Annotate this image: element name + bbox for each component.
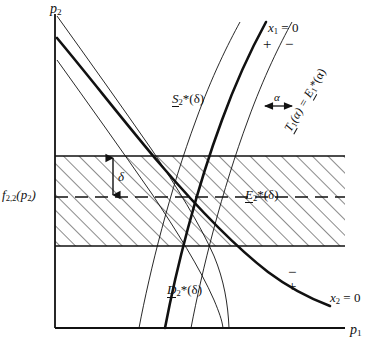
y-axis-label: p2 — [50, 2, 62, 17]
x2-plus-sign: + — [288, 279, 296, 294]
f-subscript: 2,2 — [6, 193, 17, 203]
hatched-band — [55, 156, 345, 246]
x-axis-label: p1 — [350, 323, 362, 338]
demand-region-label: D2*(δ) — [167, 283, 202, 297]
axis-value-label-f22: f2,2(p2) — [2, 188, 36, 202]
delta-label: δ — [118, 170, 124, 183]
alpha-label: α — [274, 92, 280, 103]
y-axis-label-subscript: 2 — [57, 7, 62, 17]
x2-zero-label: x2 = 0 — [330, 291, 360, 305]
supply-region-label: S2*(δ) — [172, 92, 204, 106]
figure-container: p2 p1 f2,2(p2) δ α x1 = 0 + − x2 = 0 − +… — [0, 0, 373, 340]
x1-minus-sign: − — [285, 37, 293, 52]
x1-plus-sign: + — [263, 37, 271, 52]
x1-zero-label: x1 = 0 — [268, 21, 298, 35]
x-axis-label-subscript: 1 — [357, 328, 362, 338]
excess-region-label: E2*(δ) — [245, 188, 279, 202]
excess-region-letter: E — [245, 187, 253, 203]
demand-region-letter: D — [167, 282, 176, 298]
